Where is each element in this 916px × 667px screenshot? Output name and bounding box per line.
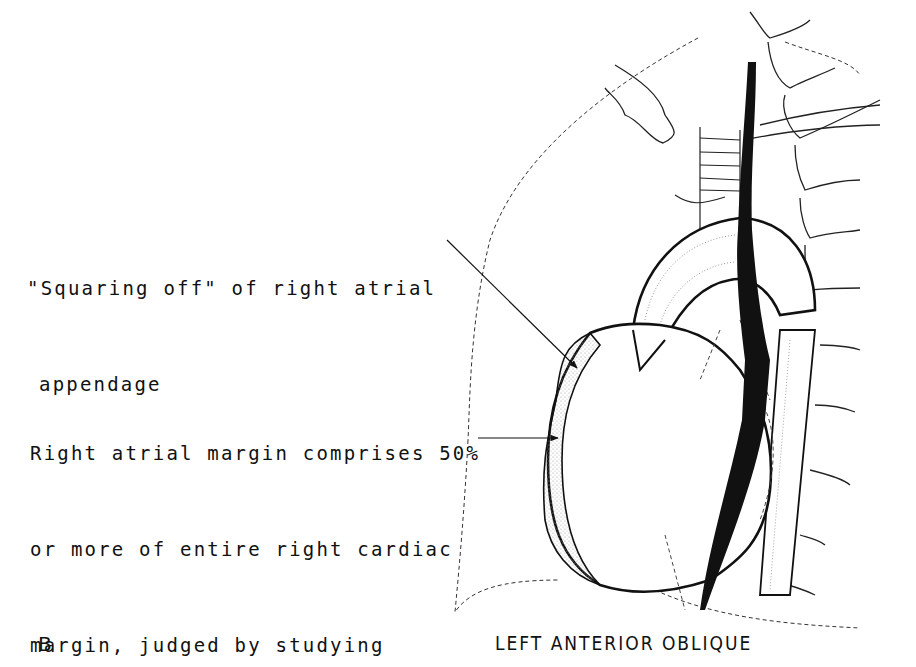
aortic-arch — [633, 218, 815, 340]
annotation-line: Right atrial margin comprises 50% — [30, 437, 480, 469]
arrow-squaring-off — [447, 240, 577, 368]
annotation-line: margin, judged by studying — [30, 629, 480, 661]
view-caption: LEFT ANTERIOR OBLIQUE — [495, 632, 752, 654]
panel-letter: B — [38, 632, 52, 656]
clavicle — [605, 65, 674, 143]
annotation-line: or more of entire right cardiac — [30, 533, 480, 565]
annotation-line: "Squaring off" of right atrial — [27, 272, 436, 304]
medical-diagram: "Squaring off" of right atrial appendage… — [0, 0, 916, 667]
annotation-right-atrial-margin: Right atrial margin comprises 50% or mor… — [30, 373, 480, 667]
